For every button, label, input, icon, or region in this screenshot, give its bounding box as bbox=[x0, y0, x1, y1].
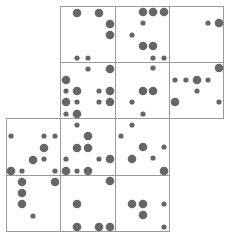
small-dot bbox=[161, 55, 166, 60]
small-dot bbox=[52, 133, 57, 138]
small-dot bbox=[74, 168, 79, 173]
small-dot bbox=[41, 156, 46, 161]
large-dot bbox=[18, 178, 27, 187]
large-dot bbox=[95, 9, 104, 18]
small-dot bbox=[19, 168, 24, 173]
large-dot bbox=[18, 189, 27, 198]
small-dot bbox=[96, 88, 101, 93]
large-dot bbox=[139, 42, 148, 51]
small-dot bbox=[74, 55, 79, 60]
large-dot bbox=[215, 19, 224, 28]
large-dot bbox=[7, 167, 16, 176]
large-dot bbox=[106, 20, 115, 29]
large-dot bbox=[128, 200, 137, 209]
large-dot bbox=[84, 167, 93, 176]
small-dot bbox=[129, 99, 134, 104]
small-dot bbox=[194, 88, 199, 93]
small-dot bbox=[41, 133, 46, 138]
large-dot bbox=[160, 8, 169, 17]
large-dot bbox=[106, 177, 115, 186]
large-dot bbox=[106, 223, 115, 232]
small-dot bbox=[140, 20, 145, 25]
large-dot bbox=[106, 87, 115, 96]
small-dot bbox=[52, 168, 57, 173]
dot-grid-diagram bbox=[0, 0, 225, 238]
large-dot bbox=[73, 87, 82, 96]
large-dot bbox=[193, 76, 202, 85]
large-dot bbox=[73, 223, 82, 232]
small-dot bbox=[161, 144, 166, 149]
large-dot bbox=[73, 200, 82, 209]
small-dot bbox=[118, 133, 123, 138]
large-dot bbox=[62, 167, 71, 176]
large-dot bbox=[73, 9, 82, 18]
small-dot bbox=[150, 55, 155, 60]
small-dot bbox=[63, 156, 68, 161]
small-dot bbox=[140, 111, 145, 116]
grid-cell bbox=[7, 119, 61, 176]
large-dot bbox=[106, 65, 115, 74]
small-dot bbox=[74, 99, 79, 104]
large-dot bbox=[95, 223, 104, 232]
large-dot bbox=[62, 76, 71, 85]
large-dot bbox=[215, 64, 224, 73]
large-dot bbox=[160, 167, 169, 176]
small-dot bbox=[63, 88, 68, 93]
small-dot bbox=[8, 133, 13, 138]
large-dot bbox=[84, 144, 93, 153]
small-dot bbox=[216, 99, 221, 104]
small-dot bbox=[85, 55, 90, 60]
small-dot bbox=[150, 65, 155, 70]
small-dot bbox=[161, 201, 166, 206]
small-dot bbox=[183, 77, 188, 82]
grid-cell bbox=[170, 7, 224, 63]
large-dot bbox=[18, 200, 27, 209]
small-dot bbox=[96, 156, 101, 161]
large-dot bbox=[149, 8, 158, 17]
grid-cells bbox=[7, 7, 224, 232]
small-dot bbox=[205, 20, 210, 25]
large-dot bbox=[139, 200, 148, 209]
large-dot bbox=[139, 8, 148, 17]
large-dot bbox=[149, 42, 158, 51]
large-dot bbox=[106, 31, 115, 40]
large-dot bbox=[171, 98, 180, 107]
small-dot bbox=[172, 77, 177, 82]
large-dot bbox=[84, 132, 93, 141]
large-dot bbox=[51, 178, 60, 187]
small-dot bbox=[129, 122, 134, 127]
small-dot bbox=[85, 66, 90, 71]
small-dot bbox=[96, 99, 101, 104]
large-dot bbox=[139, 211, 148, 220]
small-dot bbox=[129, 32, 134, 37]
small-dot bbox=[161, 224, 166, 229]
large-dot bbox=[128, 155, 137, 164]
large-dot bbox=[149, 87, 158, 96]
small-dot bbox=[63, 111, 68, 116]
large-dot bbox=[106, 155, 115, 164]
large-dot bbox=[73, 110, 82, 119]
small-dot bbox=[150, 155, 155, 160]
large-dot bbox=[73, 144, 82, 153]
large-dot bbox=[106, 98, 115, 107]
large-dot bbox=[29, 156, 38, 165]
large-dot bbox=[40, 144, 49, 153]
large-dot bbox=[62, 98, 71, 107]
small-dot bbox=[205, 77, 210, 82]
large-dot bbox=[139, 143, 148, 152]
large-dot bbox=[139, 87, 148, 96]
small-dot bbox=[74, 122, 79, 127]
small-dot bbox=[30, 213, 35, 218]
